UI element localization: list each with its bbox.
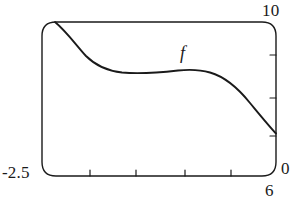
y-max-label: 10 (262, 2, 279, 19)
x-min-label: -2.5 (2, 164, 30, 181)
graph-figure: f 10 0 -2.5 6 (0, 0, 304, 205)
function-curve-f (55, 22, 276, 134)
x-max-label: 6 (265, 182, 274, 199)
y-min-label: 0 (281, 160, 290, 177)
y-axis-ticks (270, 55, 276, 136)
x-axis-ticks (90, 170, 231, 176)
plot-canvas (0, 0, 304, 205)
curve-label-f: f (180, 44, 185, 62)
